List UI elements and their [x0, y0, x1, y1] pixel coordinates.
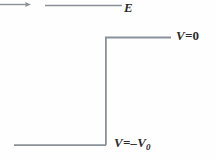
lower-potential-label: V=–V0: [114, 136, 151, 152]
energy-label-text: E: [124, 0, 133, 15]
upper-potential-var: V: [176, 28, 185, 43]
upper-potential-value: 0: [192, 28, 199, 43]
potential-step-figure: E V=0 V=–V0: [0, 0, 217, 160]
lower-potential-subscript: 0: [146, 142, 151, 152]
diagram-canvas: [0, 0, 217, 160]
lower-potential-var: V: [114, 135, 123, 150]
incident-arrow-icon: [0, 2, 31, 7]
upper-potential-label: V=0: [176, 29, 199, 42]
lower-potential-value: V: [137, 135, 146, 150]
energy-label: E: [124, 1, 133, 14]
